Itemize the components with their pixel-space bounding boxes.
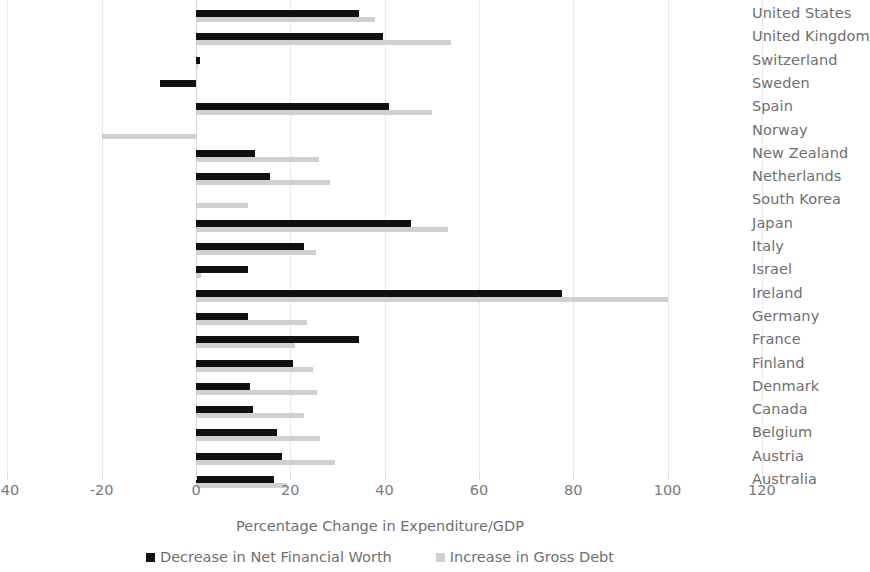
x-tick-mark <box>196 474 197 480</box>
category-label: Italy <box>752 235 784 258</box>
bar-dark <box>196 10 359 17</box>
x-tick-mark <box>479 474 480 480</box>
x-tick-mark <box>7 474 8 480</box>
legend-label: Decrease in Net Financial Worth <box>160 549 392 565</box>
category-label: New Zealand <box>752 142 848 165</box>
legend-item: Decrease in Net Financial Worth <box>146 549 392 565</box>
bar-dark <box>196 383 250 390</box>
category-label: Sweden <box>752 72 810 95</box>
bar-dark <box>196 429 277 436</box>
bar-light <box>196 390 317 395</box>
category-label: Belgium <box>752 421 812 444</box>
bar-row <box>0 286 780 309</box>
bar-light <box>196 17 375 22</box>
bar-dark <box>196 57 200 64</box>
bar-light <box>196 110 432 115</box>
bar-row <box>0 99 780 122</box>
x-tick-label: 40 <box>375 482 393 498</box>
bar-light <box>196 320 307 325</box>
bar-row <box>0 402 780 425</box>
category-label: France <box>752 328 801 351</box>
bar-light <box>196 40 451 45</box>
bar-dark <box>196 360 293 367</box>
bar-light <box>196 203 248 208</box>
x-tick-mark <box>668 474 669 480</box>
bar-light <box>196 250 316 255</box>
legend-swatch-light <box>436 553 445 562</box>
chart-legend: Decrease in Net Financial WorthIncrease … <box>0 549 760 565</box>
x-tick-mark <box>290 474 291 480</box>
category-label: Canada <box>752 398 808 421</box>
x-tick-mark <box>762 474 763 480</box>
bar-dark <box>160 80 196 87</box>
bar-row <box>0 332 780 355</box>
bar-dark <box>196 150 255 157</box>
category-label: Japan <box>752 212 793 235</box>
bar-dark <box>196 243 304 250</box>
bar-light <box>196 273 201 278</box>
x-axis-title: Percentage Change in Expenditure/GDP <box>0 518 760 534</box>
category-axis-labels: United StatesUnited KingdomSwitzerlandSw… <box>752 0 861 474</box>
bar-row <box>0 379 780 402</box>
bar-light <box>196 413 304 418</box>
bar-dark <box>196 33 383 40</box>
bar-row <box>0 262 780 285</box>
bar-dark <box>196 103 389 110</box>
category-label: Denmark <box>752 375 819 398</box>
x-tick-label: 60 <box>470 482 488 498</box>
bar-light <box>196 64 198 69</box>
bar-dark <box>196 453 282 460</box>
bar-row <box>0 123 780 146</box>
category-label: United Kingdom <box>752 25 870 48</box>
category-label: Switzerland <box>752 49 838 72</box>
bar-row <box>0 216 780 239</box>
x-tick-label: 80 <box>564 482 582 498</box>
legend-label: Increase in Gross Debt <box>450 549 614 565</box>
bar-row <box>0 76 780 99</box>
x-tick-label: 120 <box>748 482 776 498</box>
bar-row <box>0 146 780 169</box>
bar-row <box>0 192 780 215</box>
x-tick-mark <box>573 474 574 480</box>
x-axis: -40-20020406080100120 <box>0 474 780 504</box>
bar-dark <box>196 220 411 227</box>
x-tick-mark <box>385 474 386 480</box>
legend-item: Increase in Gross Debt <box>436 549 614 565</box>
x-tick-label: 100 <box>654 482 682 498</box>
bar-light <box>196 343 295 348</box>
bar-light <box>196 297 668 302</box>
x-tick-label: -40 <box>0 482 19 498</box>
category-label: Israel <box>752 258 792 281</box>
category-label: Finland <box>752 352 805 375</box>
bar-light <box>196 227 448 232</box>
category-label: South Korea <box>752 188 841 211</box>
bar-light <box>196 436 320 441</box>
bar-dark <box>196 313 248 320</box>
bar-dark <box>196 290 562 297</box>
x-tick-label: -20 <box>90 482 114 498</box>
category-label: Spain <box>752 95 793 118</box>
bar-row <box>0 309 780 332</box>
bar-dark <box>196 336 359 343</box>
bar-light <box>196 157 319 162</box>
category-label: Germany <box>752 305 819 328</box>
bar-light <box>196 367 313 372</box>
bar-light <box>196 180 330 185</box>
x-tick-mark <box>102 474 103 480</box>
category-label: Ireland <box>752 282 803 305</box>
bar-row <box>0 6 780 29</box>
bar-light <box>196 460 335 465</box>
category-label: Netherlands <box>752 165 842 188</box>
bar-row <box>0 239 780 262</box>
x-tick-label: 20 <box>281 482 299 498</box>
category-label: Austria <box>752 445 804 468</box>
x-tick-label: 0 <box>191 482 200 498</box>
bar-row <box>0 53 780 76</box>
category-label: United States <box>752 2 852 25</box>
legend-swatch-dark <box>146 553 155 562</box>
bar-row <box>0 29 780 52</box>
bar-dark <box>196 266 248 273</box>
bar-light <box>102 134 196 139</box>
category-label: Norway <box>752 119 808 142</box>
